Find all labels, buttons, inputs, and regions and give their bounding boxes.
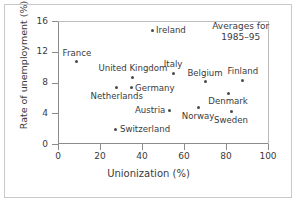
annotation-line-2: 1985–95 <box>201 32 281 43</box>
data-point-label: Denmark <box>208 97 248 106</box>
x-tick-label: 40 <box>122 152 162 161</box>
data-point-label: Sweden <box>214 116 248 125</box>
y-tick-mark <box>52 113 58 114</box>
data-point-label: Finland <box>227 67 258 76</box>
y-tick-mark <box>52 83 58 84</box>
data-point-label: Belgium <box>187 69 222 78</box>
data-point-label: France <box>63 49 92 58</box>
x-tick-label: 80 <box>206 152 246 161</box>
y-axis-label: Rate of unemployment (%) <box>19 0 29 130</box>
data-point[interactable] <box>204 80 207 83</box>
x-tick-mark <box>58 144 59 150</box>
y-tick-label: 0 <box>14 140 48 149</box>
data-point-label: Ireland <box>156 26 186 35</box>
data-point[interactable] <box>151 29 154 32</box>
data-point-label: Switzerland <box>120 125 170 134</box>
y-tick-mark <box>52 21 58 22</box>
x-tick-label: 0 <box>38 152 78 161</box>
data-point-label: Netherlands <box>91 92 143 101</box>
x-axis-label: Unionization (%) <box>0 168 297 179</box>
x-tick-mark <box>268 144 269 150</box>
x-tick-mark <box>184 144 185 150</box>
x-tick-label: 60 <box>164 152 204 161</box>
data-point[interactable] <box>168 109 171 112</box>
annotation-line-1: Averages for <box>201 21 281 32</box>
data-point-label: Norway <box>182 112 215 121</box>
x-tick-mark <box>226 144 227 150</box>
data-point[interactable] <box>172 72 175 75</box>
y-tick-mark <box>52 52 58 53</box>
data-point[interactable] <box>230 110 233 113</box>
data-point[interactable] <box>227 92 230 95</box>
x-tick-mark <box>100 144 101 150</box>
chart-annotation: Averages for 1985–95 <box>201 21 281 43</box>
x-tick-label: 100 <box>248 152 288 161</box>
scatter-plot-figure: 0481216 020406080100 Rate of unemploymen… <box>0 0 297 203</box>
data-point-label: United Kingdom <box>98 64 167 73</box>
data-point-label: Austria <box>135 106 165 115</box>
x-tick-mark <box>142 144 143 150</box>
x-tick-label: 20 <box>80 152 120 161</box>
